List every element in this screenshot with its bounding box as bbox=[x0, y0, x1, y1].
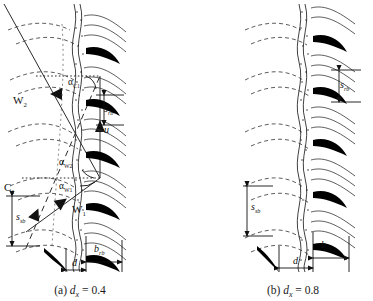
caption-a-equals: = bbox=[82, 284, 89, 296]
caption-b-value: 0.8 bbox=[305, 284, 319, 296]
label-alpha-C1: αC1 bbox=[68, 78, 80, 90]
caption-b-equals: = bbox=[295, 284, 302, 296]
rotor-chord-label-a: brb bbox=[94, 244, 105, 256]
caption-a-subscript: x bbox=[76, 290, 80, 299]
cascade-panel-a: srb ssb brb d bbox=[0, 0, 130, 272]
stator-blade-a bbox=[44, 248, 68, 272]
label-u: u bbox=[104, 125, 109, 135]
stator-pitch-label-a: ssb bbox=[16, 212, 25, 224]
rotor-pitch-label-a: srb bbox=[104, 104, 113, 116]
caption-a: (a) dx = 0.4 bbox=[5, 284, 155, 299]
rotor-chord-label-b: brb bbox=[321, 240, 332, 252]
cascade-diagram-b bbox=[243, 0, 373, 272]
axial-gap-label-a: d bbox=[72, 258, 77, 268]
label-alpha-W2: αW2 bbox=[59, 158, 72, 170]
stator-trailing-edge-band-a bbox=[72, 4, 82, 272]
caption-a-value: 0.4 bbox=[91, 284, 105, 296]
label-W2: W2 bbox=[13, 95, 27, 109]
stator-wake-lines-b bbox=[245, 23, 309, 255]
turbulence-speckle-a bbox=[75, 11, 83, 260]
label-C1: C1 bbox=[4, 182, 15, 196]
figure-container: srb ssb brb d bbox=[0, 0, 373, 301]
caption-a-prefix: (a) bbox=[54, 284, 67, 296]
stator-blade-b bbox=[257, 246, 279, 272]
turbulence-speckle-b bbox=[300, 11, 308, 260]
wake-streak-a bbox=[52, 24, 63, 246]
rotor-blades-b bbox=[313, 35, 347, 260]
axial-gap-label-b: d bbox=[293, 256, 298, 266]
rotor-pitch-label-b: srb bbox=[340, 80, 349, 92]
stator-pitch-label-b: ssb bbox=[251, 202, 260, 214]
caption-b: (b) dx = 0.8 bbox=[218, 284, 368, 299]
label-alpha-W1: αW1 bbox=[59, 182, 72, 194]
caption-b-prefix: (b) bbox=[267, 284, 280, 296]
cascade-panel-b: srb ssb brb d bbox=[243, 0, 373, 272]
caption-b-subscript: x bbox=[289, 290, 293, 299]
rotor-blades-a bbox=[86, 47, 120, 272]
label-W1: W1 bbox=[72, 204, 86, 218]
cascade-diagram-a bbox=[0, 0, 130, 272]
